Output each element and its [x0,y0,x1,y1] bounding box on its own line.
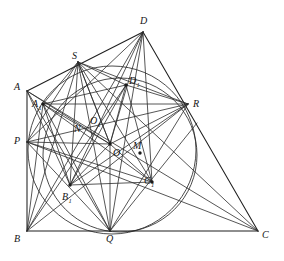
ray-BA1 [27,104,43,231]
ray-OB1 [70,144,110,185]
point-marker-O [108,142,111,145]
diag-B1D1 [70,85,126,185]
point-label-O1: O1 [90,116,101,129]
point-label-B1: B1 [62,192,72,205]
point-label-C: C [262,230,269,240]
point-label-O: O [113,148,120,158]
chord-QR [110,104,188,231]
point-marker-M [138,151,141,154]
point-label-A: A [14,82,20,92]
point-label-D1: D1 [129,76,140,89]
point-label-P: P [14,136,20,146]
ray-C1D [143,32,152,182]
point-label-S: S [72,51,77,61]
point-label-R: R [193,99,199,109]
geometry-canvas [0,0,284,261]
point-label-A1: A1 [32,99,42,112]
side-CD [143,32,258,231]
point-marker-D1 [124,83,127,86]
ray-SA1 [43,62,78,104]
point-label-D: D [140,16,147,26]
point-marker-B1 [68,183,71,186]
geometry-figure: AA1BB1CC1DD1PQRSOO1NM [0,0,284,261]
point-label-Q: Q [106,234,113,244]
point-label-M: M [133,141,141,151]
point-marker-A1 [41,102,44,105]
point-label-N: N [74,124,81,134]
point-label-C1: C1 [144,176,154,189]
point-label-B: B [14,234,20,244]
